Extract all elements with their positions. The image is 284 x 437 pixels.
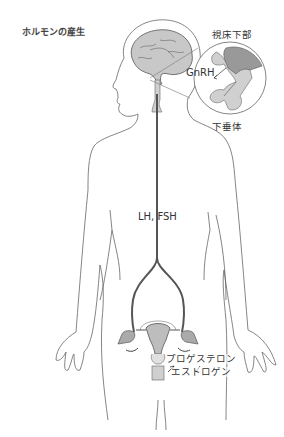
label-estrogen: エストロゲン xyxy=(171,367,231,377)
label-gnrh: GnRH xyxy=(186,68,215,78)
label-pituitary: 下垂体 xyxy=(212,122,242,132)
label-progesterone: プロゲステロン xyxy=(166,354,236,364)
magnified-hypothalamus-pituitary xyxy=(194,42,266,114)
diagram-title: ホルモンの産生 xyxy=(22,28,85,37)
label-hypothalamus: 視床下部 xyxy=(212,30,252,40)
label-lh-fsh: LH, FSH xyxy=(138,212,177,222)
